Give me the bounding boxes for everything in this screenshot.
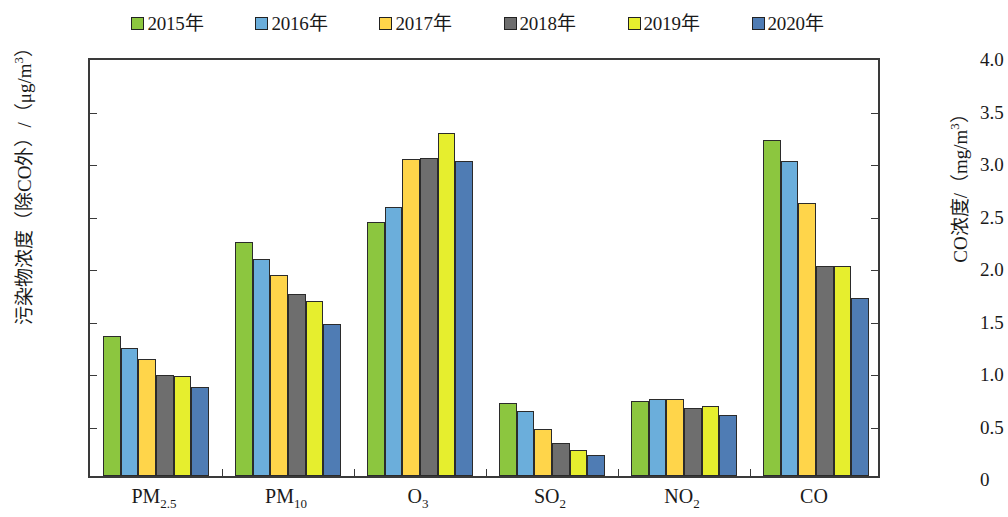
bar-PM2.5-2017年 [138,359,156,476]
bar-CO-2019年 [834,266,852,476]
legend-item-label: 2019年 [644,14,700,33]
bar-SO2-2018年 [552,443,570,476]
bar-NO2-2017年 [666,399,684,476]
bar-NO2-2016年 [649,399,667,476]
bar-PM2.5-2020年 [191,387,209,476]
legend-item-label: 2018年 [520,14,576,33]
bar-PM10-2018年 [288,294,306,476]
left-tick-mark [90,323,97,324]
right-tick-label: 2.5 [980,208,1008,227]
bar-O3-2017年 [402,159,420,476]
right-tick-label: 1.5 [980,313,1008,332]
left-tick-mark [90,428,97,429]
x-category-label-NO2: NO2 [616,486,748,514]
x-category-label-O3: O3 [352,486,484,514]
x-tick-mark [354,469,355,476]
bar-PM10-2015年 [235,242,253,477]
legend-item-2017年: 2017年 [379,14,451,33]
right-tick-mark [871,270,878,271]
right-tick-label: 3.5 [980,103,1008,122]
legend-item-2020年: 2020年 [752,14,824,33]
right-tick-label: 2.0 [980,260,1008,279]
bar-NO2-2020年 [719,415,737,476]
legend-swatch-icon [131,17,144,30]
right-tick-label: 0.5 [980,418,1008,437]
bar-PM2.5-2015年 [103,336,121,476]
legend-swatch-icon [504,17,517,30]
bar-PM2.5-2016年 [121,348,139,476]
legend-item-label: 2017年 [395,14,451,33]
x-tick-mark [222,469,223,476]
right-tick-mark [871,113,878,114]
legend-item-label: 2015年 [147,14,203,33]
right-axis-title: CO浓度/（mg/m3） [945,0,972,384]
x-tick-mark [750,469,751,476]
bar-SO2-2019年 [570,450,588,476]
plot-area: 2402101801501209060300 4.03.53.02.52.01.… [88,58,880,478]
left-tick-mark [90,218,97,219]
bar-NO2-2018年 [684,408,702,476]
right-tick-label: 1.0 [980,365,1008,384]
legend-swatch-icon [255,17,268,30]
right-tick-mark [871,428,878,429]
legend-item-label: 2016年 [271,14,327,33]
bar-O3-2019年 [438,133,456,476]
bar-NO2-2019年 [702,406,720,476]
legend-item-label: 2020年 [768,14,824,33]
chart-legend: 2015年2016年2017年2018年2019年2020年 [0,8,955,38]
bar-CO-2016年 [781,161,799,476]
x-category-label-SO2: SO2 [484,486,616,514]
bar-O3-2018年 [420,158,438,477]
bar-CO-2015年 [763,140,781,476]
bar-O3-2015年 [367,222,385,476]
right-tick-mark [871,323,878,324]
left-tick-mark [90,375,97,376]
right-tick-label: 3.0 [980,155,1008,174]
bar-PM10-2020年 [323,324,341,476]
legend-swatch-icon [379,17,392,30]
bar-CO-2018年 [816,266,834,476]
bar-PM10-2017年 [270,275,288,476]
right-tick-mark [871,375,878,376]
x-category-label-PM10: PM10 [220,486,352,514]
bar-NO2-2015年 [631,401,649,476]
legend-swatch-icon [628,17,641,30]
legend-item-2018年: 2018年 [504,14,576,33]
bar-PM2.5-2019年 [174,376,192,476]
bar-O3-2020年 [455,161,473,476]
legend-swatch-icon [752,17,765,30]
bar-CO-2020年 [851,298,869,477]
bar-PM2.5-2018年 [156,375,174,477]
bar-SO2-2015年 [499,403,517,477]
left-tick-mark [90,270,97,271]
legend-item-2015年: 2015年 [131,14,203,33]
bar-SO2-2016年 [517,411,535,476]
left-axis-title: 污染物浓度（除CO外）/（μg/m3） [9,0,36,382]
right-tick-mark [871,165,878,166]
left-tick-mark [90,165,97,166]
bar-PM10-2019年 [306,301,324,476]
right-tick-label: 4.0 [980,50,1008,69]
right-tick-label: 0 [980,470,1008,489]
bar-PM10-2016年 [253,259,271,476]
x-tick-mark [486,469,487,476]
right-tick-mark [871,218,878,219]
left-tick-mark [90,113,97,114]
bar-SO2-2017年 [534,429,552,476]
legend-item-2019年: 2019年 [628,14,700,33]
x-tick-mark [618,469,619,476]
bar-CO-2017年 [798,203,816,476]
x-category-label-PM2.5: PM2.5 [88,486,220,514]
bar-O3-2016年 [385,207,403,477]
legend-item-2016年: 2016年 [255,14,327,33]
bar-SO2-2020年 [587,455,605,476]
x-category-label-CO: CO [748,486,880,506]
